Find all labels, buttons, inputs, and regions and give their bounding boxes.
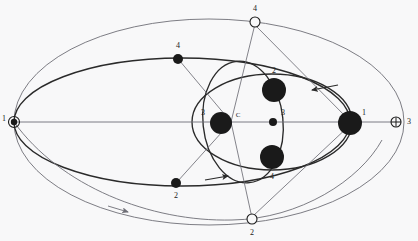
marker-label: 3 bbox=[201, 108, 205, 117]
filled-dot bbox=[173, 54, 183, 64]
marker-label: 4 bbox=[270, 172, 274, 181]
open-circle bbox=[250, 17, 260, 27]
marker-label: 1 bbox=[2, 114, 6, 123]
filled-dot bbox=[260, 145, 284, 169]
filled-dot bbox=[171, 178, 181, 188]
filled-dot bbox=[338, 111, 362, 135]
open-circle bbox=[247, 214, 257, 224]
filled-dot bbox=[269, 118, 277, 126]
marker-label: 2 bbox=[174, 191, 178, 200]
marker-label: 4 bbox=[176, 41, 180, 50]
filled-dot bbox=[262, 78, 286, 102]
marker-label: 3 bbox=[281, 108, 285, 117]
center-label: C bbox=[236, 111, 241, 119]
orbital-diagram-figure: 1 3 4 2 4 2 bbox=[0, 0, 418, 241]
marker-label: 4 bbox=[253, 4, 257, 13]
marker-label: 2 bbox=[250, 228, 254, 237]
filled-core bbox=[11, 119, 17, 125]
center-point-c: C bbox=[236, 111, 241, 119]
marker-label: 3 bbox=[407, 117, 411, 126]
diagram-canvas: 1 3 4 2 4 2 bbox=[0, 0, 418, 241]
marker-label: 1 bbox=[362, 108, 366, 117]
filled-dot bbox=[210, 112, 232, 134]
marker-label: 2 bbox=[272, 66, 276, 75]
